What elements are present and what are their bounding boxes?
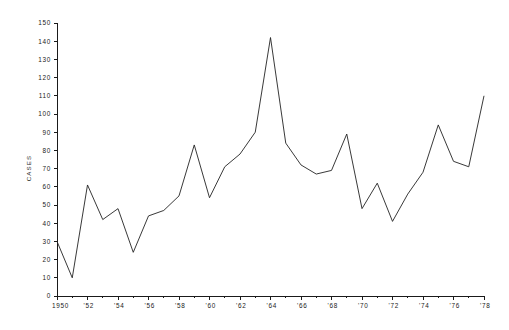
y-tick-label: 30 <box>42 238 51 245</box>
y-tick-label: 100 <box>38 110 51 117</box>
x-tick-label: '68 <box>328 302 338 309</box>
y-axis-group: 0102030405060708090100110120130140150 <box>38 19 57 299</box>
x-tick-label: '76 <box>450 302 460 309</box>
y-tick-label: 40 <box>42 220 51 227</box>
x-axis-ticks <box>57 296 484 300</box>
x-tick-label: '74 <box>419 302 429 309</box>
y-tick-label: 70 <box>42 165 51 172</box>
y-tick-label: 140 <box>38 38 51 45</box>
y-axis-tick-labels: 0102030405060708090100110120130140150 <box>38 19 51 299</box>
x-tick-label: '78 <box>480 302 490 309</box>
y-tick-label: 0 <box>47 292 51 299</box>
x-tick-label: '70 <box>358 302 368 309</box>
x-tick-label: '72 <box>389 302 399 309</box>
data-series-line <box>57 38 484 278</box>
x-tick-label: '60 <box>206 302 216 309</box>
x-tick-label: '56 <box>145 302 155 309</box>
x-tick-label: '66 <box>297 302 307 309</box>
x-axis-tick-labels: 1950'52'54'56'58'60'62'64'66'68'70'72'74… <box>52 302 490 309</box>
x-tick-label: '64 <box>267 302 277 309</box>
line-chart: 0102030405060708090100110120130140150 19… <box>0 0 509 330</box>
x-tick-label: '62 <box>236 302 246 309</box>
y-tick-label: 10 <box>42 274 51 281</box>
y-axis-ticks <box>54 23 58 296</box>
chart-container: 0102030405060708090100110120130140150 19… <box>0 0 509 330</box>
y-tick-label: 80 <box>42 147 51 154</box>
y-tick-label: 50 <box>42 201 51 208</box>
x-axis-group: 1950'52'54'56'58'60'62'64'66'68'70'72'74… <box>52 296 490 309</box>
y-tick-label: 60 <box>42 183 51 190</box>
x-tick-label: '58 <box>175 302 185 309</box>
y-tick-label: 20 <box>42 256 51 263</box>
x-tick-label: '52 <box>84 302 94 309</box>
y-tick-label: 130 <box>38 56 51 63</box>
y-tick-label: 90 <box>42 129 51 136</box>
y-tick-label: 110 <box>39 92 51 99</box>
x-tick-label: 1950 <box>52 302 69 309</box>
y-tick-label: 150 <box>38 19 51 26</box>
y-tick-label: 120 <box>38 74 51 81</box>
y-axis-title: CASES <box>25 155 32 181</box>
x-tick-label: '54 <box>114 302 124 309</box>
